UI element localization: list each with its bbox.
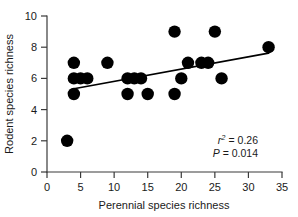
p-value-annotation: P= 0.014 (213, 147, 259, 159)
data-point (142, 88, 154, 100)
data-points-group (61, 25, 275, 147)
data-point (101, 57, 113, 69)
x-tick-label-10: 10 (108, 181, 120, 193)
y-tick-label-2: 2 (31, 135, 37, 147)
y-tick-label-8: 8 (31, 41, 37, 53)
y-tick-label-4: 4 (31, 104, 37, 116)
data-point (202, 57, 214, 69)
data-point (81, 72, 93, 84)
x-tick-label-15: 15 (142, 181, 154, 193)
x-tick-label-35: 35 (276, 181, 288, 193)
r-squared-annotation: r2= 0.26 (218, 133, 258, 147)
x-tick-label-5: 5 (78, 181, 84, 193)
y-axis-ticks: 0 2 4 6 8 10 (25, 10, 47, 178)
x-tick-label-25: 25 (209, 181, 221, 193)
data-point (168, 88, 180, 100)
r-value: = 0.26 (229, 134, 259, 146)
regression-line (73, 53, 269, 89)
y-tick-label-0: 0 (31, 166, 37, 178)
data-point (68, 88, 80, 100)
x-axis-title: Perennial species richness (99, 199, 230, 211)
data-point (262, 41, 274, 53)
data-point (175, 72, 187, 84)
data-point (68, 57, 80, 69)
x-tick-label-20: 20 (175, 181, 187, 193)
data-point (135, 72, 147, 84)
data-point (61, 135, 73, 147)
y-tick-label-10: 10 (25, 10, 37, 22)
scatter-plot-figure: 0 2 4 6 8 10 0 5 10 15 20 25 30 35 (0, 0, 298, 217)
p-value: = 0.014 (223, 147, 258, 159)
data-point (168, 25, 180, 37)
y-axis-title: Rodent species richness (3, 34, 15, 154)
x-tick-label-30: 30 (242, 181, 254, 193)
r-exponent: 2 (220, 133, 226, 142)
data-point (215, 72, 227, 84)
data-point (209, 25, 221, 37)
x-axis-ticks: 0 5 10 15 20 25 30 35 (44, 172, 288, 193)
data-point (121, 88, 133, 100)
p-symbol: P (213, 147, 220, 159)
y-tick-label-6: 6 (31, 72, 37, 84)
data-point (182, 57, 194, 69)
x-tick-label-0: 0 (44, 181, 50, 193)
chart-canvas: 0 2 4 6 8 10 0 5 10 15 20 25 30 35 (0, 0, 298, 217)
statistics-annotation: r2= 0.26 P= 0.014 (213, 133, 259, 160)
